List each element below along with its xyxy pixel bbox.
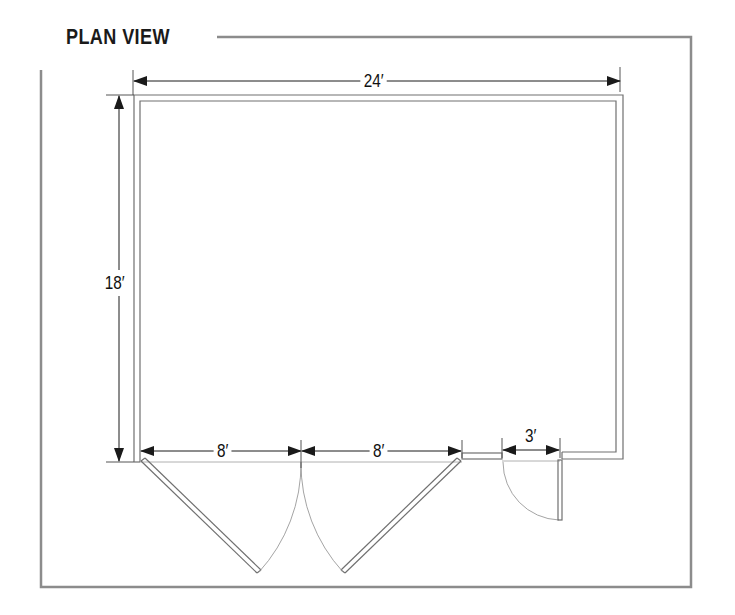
walk-door bbox=[558, 460, 562, 520]
walk-door-swing-arc bbox=[503, 462, 559, 520]
depth-dimension-label: 18′ bbox=[103, 270, 126, 296]
walk-door-dimension-label: 3′ bbox=[522, 426, 540, 446]
dimension-lines bbox=[106, 67, 620, 468]
right-door-leaf bbox=[341, 458, 461, 573]
drawing-frame bbox=[41, 37, 691, 587]
building-walls bbox=[134, 95, 623, 462]
plan-view-drawing bbox=[0, 0, 735, 615]
left-swing-arc bbox=[259, 462, 301, 572]
plan-view-title: PLAN VIEW bbox=[66, 24, 170, 50]
left-door-dimension-label: 8′ bbox=[214, 441, 232, 461]
right-swing-arc bbox=[301, 462, 343, 572]
door-swing-arcs bbox=[259, 462, 559, 572]
width-dimension-label: 24′ bbox=[360, 71, 387, 91]
left-door-leaf bbox=[141, 458, 261, 573]
right-door-dimension-label: 8′ bbox=[370, 441, 388, 461]
